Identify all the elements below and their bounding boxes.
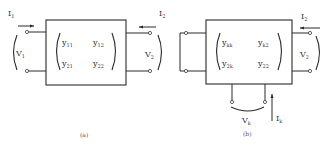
terminal-left-bottom-b [184,69,187,72]
caption-a: (a) [80,131,88,138]
voltage-label-v2-a: V2 [144,50,154,60]
terminal-right-top-a [148,31,151,34]
terminal-right-bottom-b [308,69,311,72]
two-port-box-b [206,20,292,84]
terminal-right-bottom-a [148,69,151,72]
current-label-i2-a: I2 [159,9,165,19]
terminal-left-top-b [184,31,187,34]
terminal-bottom-left-b [230,100,233,103]
voltage-arc-right-b [316,36,320,70]
terminal-right-top-b [308,31,311,34]
caption-b: (b) [243,130,252,137]
voltage-arc-bottom-b [231,107,264,111]
voltage-arc-right-a [158,35,162,70]
terminal-left-bottom-a [25,69,28,72]
terminal-left-top-a [25,30,28,33]
arrow-left-icon [139,26,156,29]
voltage-label-v2-b: V2 [299,50,309,60]
panel-b: I2 V2 Vk Ik ykk yk2 y2k y22 (b) [180,12,320,137]
terminal-bottom-right-b [263,100,266,103]
arrow-up-icon [271,94,274,121]
current-label-ik: Ik [276,114,283,124]
current-label-i1: I1 [8,9,14,19]
arrow-right-icon [18,25,34,28]
panel-a: I1 I2 V1 V2 y11 y12 y21 y22 (a) [8,9,165,138]
two-port-network-diagram: I1 I2 V1 V2 y11 y12 y21 y22 (a) [0,0,330,148]
two-port-box-a [46,20,126,85]
current-label-i2-b: I2 [301,12,307,22]
voltage-label-v1: V1 [15,49,25,59]
arrow-left-icon [300,27,320,30]
voltage-label-vk: Vk [241,116,252,126]
